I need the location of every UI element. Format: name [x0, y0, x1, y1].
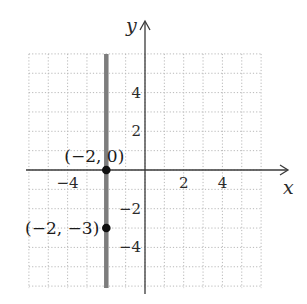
y-tick-label: −4	[119, 238, 141, 256]
points: (−2, 0)(−2, −3)	[25, 146, 124, 238]
point-label: (−2, 0)	[64, 146, 124, 166]
x-axis-label: x	[283, 176, 294, 198]
coordinate-plane: x y −42442−2−4 (−2, 0)(−2, −3)	[0, 0, 307, 304]
point-marker	[102, 224, 111, 233]
y-axis-label: y	[125, 14, 137, 36]
y-tick-label: 2	[131, 122, 141, 140]
x-tick-label: 2	[179, 174, 189, 192]
point-marker	[102, 166, 111, 175]
x-tick-label: 4	[218, 174, 228, 192]
x-tick-label: −4	[57, 174, 79, 192]
y-tick-label: 4	[131, 84, 141, 102]
y-tick-label: −2	[119, 200, 141, 218]
point-label: (−2, −3)	[25, 218, 99, 238]
